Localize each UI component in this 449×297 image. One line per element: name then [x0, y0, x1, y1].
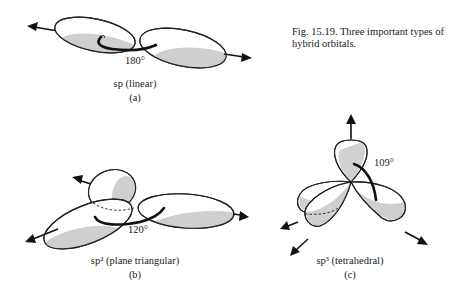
axis-arrow-lower-right	[405, 232, 428, 245]
panel-a-label: sp (linear)	[114, 78, 157, 90]
orbital-lobe-right	[136, 21, 245, 84]
axis-arrow-left	[280, 221, 298, 230]
panel-b-label: sp² (plane triangular)	[91, 255, 180, 267]
orbital-lobe-top	[335, 140, 368, 182]
orbital-lobe-right	[351, 182, 405, 221]
axis-arrow-right	[233, 211, 249, 221]
panel-a-letter: (a)	[129, 92, 141, 104]
axis-arrow-right	[224, 53, 252, 62]
panel-a-sp-linear: 180° sp (linear) (a)	[27, 11, 252, 104]
axis-arrow-left	[27, 22, 58, 31]
orbital-lobe-left	[37, 189, 138, 265]
panel-b-letter: (b)	[129, 269, 142, 281]
hybrid-orbitals-diagram: 180° sp (linear) (a)	[0, 0, 449, 297]
angle-label-180: 180°	[125, 55, 145, 66]
panel-c-letter: (c)	[344, 269, 356, 281]
axis-arrow-up	[346, 114, 356, 139]
panel-c-sp3-tetrahedral: 109° sp³ (tetrahedral) (c)	[280, 114, 428, 281]
angle-label-109: 109°	[374, 157, 394, 168]
panel-b-sp2-plane-triangular: 120° sp² (plane triangular) (b)	[25, 163, 249, 281]
angle-label-120: 120°	[128, 224, 148, 235]
axis-arrow-lower-left	[290, 239, 308, 256]
panel-c-label: sp³ (tetrahedral)	[317, 255, 384, 267]
axis-arrow-upper-left	[72, 175, 91, 184]
